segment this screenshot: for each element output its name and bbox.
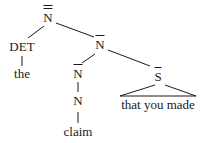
node-sbar: S xyxy=(154,70,161,83)
sbar-bar xyxy=(155,67,162,68)
node-nbar-inner: N xyxy=(73,67,82,80)
node-root: N xyxy=(43,11,52,24)
nbar-inner-bar xyxy=(74,64,83,65)
nbar-bar xyxy=(96,35,105,36)
node-claim: claim xyxy=(64,125,93,138)
node-n: N xyxy=(73,94,82,107)
root-bar-1 xyxy=(44,5,53,6)
root-bar-2 xyxy=(44,8,53,9)
node-nbar: N xyxy=(95,38,104,51)
node-det: DET xyxy=(9,40,34,53)
node-the: the xyxy=(14,67,30,80)
node-sbar-text: that you made xyxy=(121,98,195,111)
tree-edges xyxy=(0,0,204,143)
